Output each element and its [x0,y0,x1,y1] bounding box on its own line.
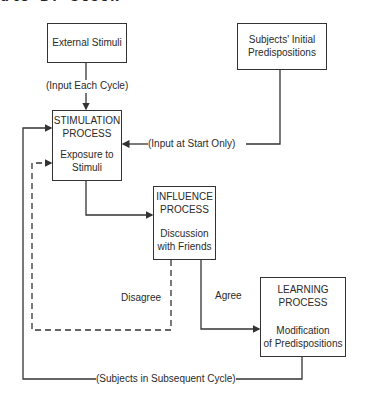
learning-title1: LEARNING [277,284,328,297]
stimulation-process-box: STIMULATION PROCESS Exposure to Stimuli [52,110,122,181]
learning-sub1: Modification [276,325,329,338]
influence-sub2: with Friends [158,241,212,254]
learning-process-box: LEARNING PROCESS Modification of Predisp… [260,277,346,357]
stimulation-sub1: Exposure to [60,149,113,162]
learning-sub2: of Predispositions [264,338,343,351]
influence-process-box: INFLUENCE PROCESS Discussion with Friend… [153,186,216,260]
agree-label: Agree [215,290,242,302]
influence-sub1: Discussion [160,228,208,241]
stimulation-sub2: Stimuli [72,162,102,175]
subjects-predispositions-box: Subjects' Initial Predispositions [237,23,327,70]
subjects-line1: Subjects' Initial [249,34,315,47]
input-each-cycle-label: (Input Each Cycle) [46,80,128,92]
disagree-label: Disagree [121,292,161,304]
stimulation-title1: STIMULATION [54,115,120,128]
learning-title2: PROCESS [279,297,328,310]
external-stimuli-box: External Stimuli [47,23,127,63]
stimulation-title2: PROCESS [63,128,112,141]
influence-title2: PROCESS [160,204,209,217]
input-at-start-label: (Input at Start Only) [148,138,235,150]
influence-title1: INFLUENCE [156,191,213,204]
subjects-line2: Predispositions [248,47,316,60]
subsequent-cycle-label: (Subjects in Subsequent Cycle) [96,373,236,385]
external-stimuli-label: External Stimuli [52,37,121,50]
